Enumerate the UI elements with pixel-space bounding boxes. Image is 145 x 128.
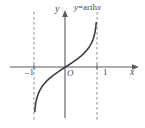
math-figure: y x O –1 1 y=arthx bbox=[0, 0, 145, 128]
origin-label: O bbox=[67, 69, 74, 78]
tick-label-positive-one: 1 bbox=[103, 68, 108, 77]
curve-equation-function: =arth bbox=[78, 2, 97, 12]
y-axis-label: y bbox=[55, 4, 59, 14]
curve-equation-argument: x bbox=[97, 2, 101, 12]
tick-label-negative-one: –1 bbox=[25, 68, 34, 77]
curve-equation-label: y=arthx bbox=[74, 3, 101, 12]
x-axis-label: x bbox=[130, 67, 134, 77]
plot-canvas bbox=[0, 0, 145, 128]
y-axis bbox=[62, 10, 68, 118]
y-axis-arrowhead bbox=[62, 10, 68, 17]
